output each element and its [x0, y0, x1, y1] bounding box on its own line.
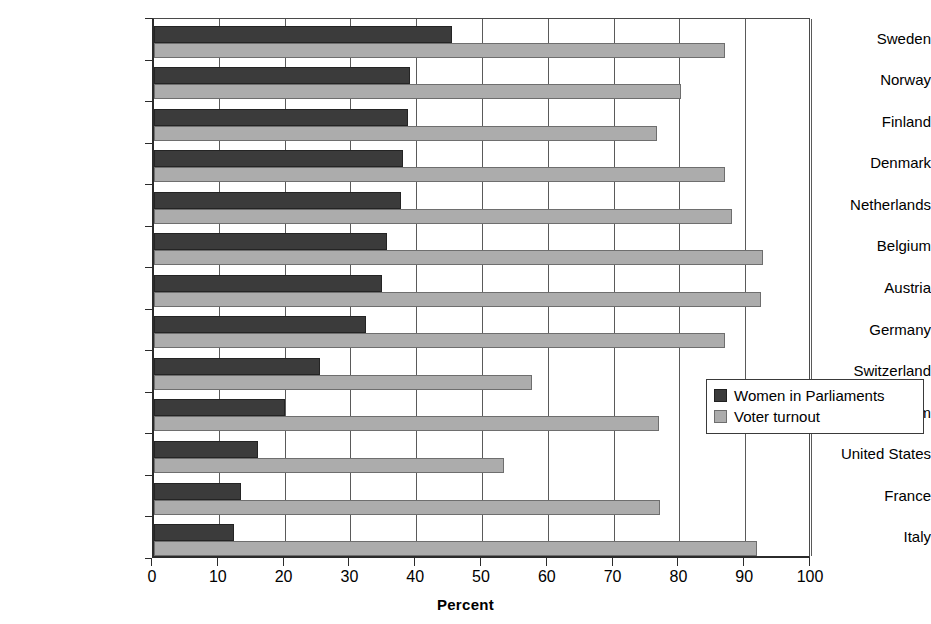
x-axis-tick-100 [809, 558, 810, 566]
x-axis-label-100: 100 [780, 568, 840, 586]
bar-women-in-parliaments [154, 150, 403, 167]
bar-women-in-parliaments [154, 316, 366, 333]
legend-swatch-icon [714, 410, 727, 423]
legend-swatch-icon [714, 389, 727, 402]
bar-women-in-parliaments [154, 26, 452, 43]
bar-women-in-parliaments [154, 483, 241, 500]
y-axis-tick [145, 475, 152, 476]
x-axis-title: Percent [0, 596, 931, 613]
plot-area [152, 18, 810, 558]
bar-group [154, 144, 809, 186]
bar-group [154, 19, 809, 61]
bar-group [154, 61, 809, 103]
legend-label: Women in Parliaments [734, 388, 885, 403]
y-axis-tick [145, 60, 152, 61]
bar-voter-turnout [154, 84, 681, 99]
x-axis-tick-30 [348, 558, 349, 566]
x-axis-tick-70 [612, 558, 613, 566]
y-axis-tick [145, 392, 152, 393]
bar-chart: SwedenNorwayFinlandDenmarkNetherlandsBel… [0, 0, 931, 624]
bar-women-in-parliaments [154, 275, 382, 292]
x-axis-label-40: 40 [385, 568, 445, 586]
x-axis-label-10: 10 [188, 568, 248, 586]
x-axis-label-90: 90 [714, 568, 774, 586]
bar-voter-turnout [154, 250, 763, 265]
x-axis-label-0: 0 [122, 568, 182, 586]
y-axis-tick [145, 18, 152, 19]
y-axis-tick [145, 226, 152, 227]
bar-voter-turnout [154, 458, 504, 473]
x-axis-tick-0 [151, 558, 152, 566]
bar-group [154, 310, 809, 352]
bar-voter-turnout [154, 167, 725, 182]
x-axis-tick-40 [414, 558, 415, 566]
x-axis-tick-80 [677, 558, 678, 566]
bar-women-in-parliaments [154, 358, 320, 375]
x-axis-tick-90 [743, 558, 744, 566]
bar-voter-turnout [154, 209, 732, 224]
y-axis-tick [145, 309, 152, 310]
x-axis-tick-10 [217, 558, 218, 566]
bar-women-in-parliaments [154, 399, 285, 416]
x-axis-label-30: 30 [319, 568, 379, 586]
legend-item: Voter turnout [714, 406, 917, 427]
x-axis-label-70: 70 [583, 568, 643, 586]
chart-legend: Women in ParliamentsVoter turnout [706, 379, 924, 434]
y-axis-tick [145, 516, 152, 517]
y-axis-tick [145, 433, 152, 434]
x-axis-label-50: 50 [451, 568, 511, 586]
bar-voter-turnout [154, 333, 725, 348]
gridline-100 [811, 19, 812, 556]
bar-women-in-parliaments [154, 441, 258, 458]
y-axis-tick [145, 350, 152, 351]
y-axis-tick [145, 101, 152, 102]
x-axis-tick-20 [283, 558, 284, 566]
legend-item: Women in Parliaments [714, 385, 917, 406]
bar-group [154, 227, 809, 269]
x-axis-label-60: 60 [517, 568, 577, 586]
bar-group [154, 102, 809, 144]
bar-group [154, 434, 809, 476]
legend-label: Voter turnout [734, 409, 820, 424]
y-axis-tick [145, 267, 152, 268]
bar-group [154, 476, 809, 518]
bar-women-in-parliaments [154, 192, 401, 209]
bar-voter-turnout [154, 375, 532, 390]
bar-group [154, 517, 809, 559]
bar-voter-turnout [154, 500, 660, 515]
bar-women-in-parliaments [154, 233, 387, 250]
bar-voter-turnout [154, 416, 659, 431]
x-axis-tick-50 [480, 558, 481, 566]
x-axis-label-20: 20 [254, 568, 314, 586]
y-axis-tick [145, 143, 152, 144]
bar-women-in-parliaments [154, 67, 410, 84]
x-axis-tick-60 [546, 558, 547, 566]
bar-women-in-parliaments [154, 109, 408, 126]
bar-women-in-parliaments [154, 524, 234, 541]
bar-group [154, 185, 809, 227]
bar-voter-turnout [154, 43, 725, 58]
bar-voter-turnout [154, 126, 657, 141]
bar-voter-turnout [154, 292, 761, 307]
x-axis-label-80: 80 [648, 568, 708, 586]
y-axis-tick [145, 184, 152, 185]
bar-voter-turnout [154, 541, 757, 556]
bar-group [154, 268, 809, 310]
